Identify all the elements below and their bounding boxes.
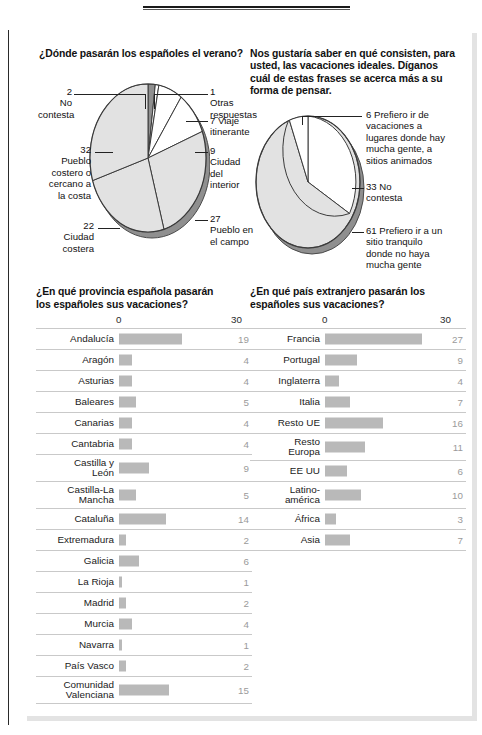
bar-fill xyxy=(325,535,350,546)
bar-row-label: Asturias xyxy=(36,376,119,387)
bar-row-value: 9 xyxy=(244,463,249,474)
pie1-leader-campo xyxy=(195,220,208,221)
table-row: Resto Europa11 xyxy=(250,434,466,461)
bar-row-label: País Vasco xyxy=(36,661,119,672)
bar-row-label: Cantabria xyxy=(36,439,119,450)
pie2-label-sitio-tranquilo: 61 Prefiero ir a un sitio tranquilo dond… xyxy=(366,225,462,271)
bar-fill xyxy=(325,397,350,408)
bar-row-value: 6 xyxy=(458,466,463,477)
pie1-label-no-contesta: 2 No contesta xyxy=(38,86,72,120)
bar-track: 11 xyxy=(325,434,466,460)
bar-fill xyxy=(325,514,336,525)
table-row: Andalucía19 xyxy=(36,328,252,350)
bar-row-label: Canarias xyxy=(36,418,119,429)
pie-chart-verano: ¿Dónde pasarán los españoles el verano? xyxy=(38,48,250,278)
bar-row-label: Inglaterra xyxy=(250,376,325,387)
bar-row-value: 6 xyxy=(244,556,249,567)
pie2-graphic xyxy=(254,110,366,260)
table-row: Inglaterra4 xyxy=(250,371,466,392)
bar-fill xyxy=(325,418,383,429)
bar-row-value: 4 xyxy=(244,355,249,366)
bar2-title: ¿En qué país extranjero pasarán los espa… xyxy=(250,286,428,311)
bar-row-value: 7 xyxy=(458,535,463,546)
table-row: Baleares5 xyxy=(36,392,252,413)
bar-row-label: Andalucía xyxy=(36,334,119,345)
bar-row-label: La Rioja xyxy=(36,577,119,588)
bar-track: 4 xyxy=(119,614,252,634)
bar-track: 6 xyxy=(325,461,466,481)
bar-row-value: 4 xyxy=(458,376,463,387)
bar-row-value: 1 xyxy=(244,640,249,651)
pie2-label-mucha-gente: 6 Prefiero ir de vacaciones a lugares do… xyxy=(366,109,462,166)
bar-fill xyxy=(325,442,365,453)
table-row: Canarias4 xyxy=(36,413,252,434)
bar2-tick-30: 30 xyxy=(440,314,451,325)
bar-row-value: 27 xyxy=(452,334,463,345)
bar-row-label: Italia xyxy=(250,397,325,408)
pie1-title: ¿Dónde pasarán los españoles el verano? xyxy=(38,48,244,60)
bar-row-value: 4 xyxy=(244,418,249,429)
bar-fill xyxy=(119,334,182,345)
bar-track: 2 xyxy=(119,656,252,676)
bar-row-label: Portugal xyxy=(250,355,325,366)
bar-track: 4 xyxy=(119,371,252,391)
bar-fill xyxy=(119,577,122,588)
bar-row-value: 15 xyxy=(238,685,249,696)
table-row: Castilla y León9 xyxy=(36,455,252,482)
bar-fill xyxy=(325,334,422,345)
bar-chart-paises: ¿En qué país extranjero pasarán los espa… xyxy=(250,286,466,551)
table-row: Navarra1 xyxy=(36,635,252,656)
bar-row-value: 2 xyxy=(244,661,249,672)
bar-fill xyxy=(119,439,132,450)
table-row: Latino- américa10 xyxy=(250,482,466,509)
bar-row-value: 11 xyxy=(453,442,463,453)
table-row: Comunidad Valenciana15 xyxy=(36,677,252,704)
bar-fill xyxy=(119,376,132,387)
pie1-leader-otras-v xyxy=(154,94,155,109)
bar-track: 4 xyxy=(325,371,466,391)
bar-row-value: 14 xyxy=(238,514,249,525)
bar-fill xyxy=(119,514,166,525)
bar-row-value: 4 xyxy=(244,619,249,630)
pie2-leader-no-contesta xyxy=(352,188,364,189)
bar-row-value: 1 xyxy=(244,577,249,588)
bar1-tick-30: 30 xyxy=(231,314,242,325)
pie2-label-no-contesta: 33 No contesta xyxy=(366,181,462,204)
bar-row-value: 10 xyxy=(452,490,463,501)
bar-track: 27 xyxy=(325,329,466,349)
bar-row-value: 4 xyxy=(244,376,249,387)
bar-row-label: África xyxy=(250,514,325,525)
bar-row-label: Aragón xyxy=(36,355,119,366)
table-row: Aragón4 xyxy=(36,350,252,371)
bar-fill xyxy=(119,490,136,501)
bar-fill xyxy=(119,556,139,567)
bar-track: 4 xyxy=(119,350,252,370)
pie1-leader-pueblo-costero xyxy=(95,152,113,153)
table-row: Cantabria4 xyxy=(36,434,252,455)
bar-row-value: 16 xyxy=(452,418,463,429)
table-row: La Rioja1 xyxy=(36,572,252,593)
bar-fill xyxy=(119,463,149,474)
bar-row-value: 9 xyxy=(458,355,463,366)
bar-track: 5 xyxy=(119,482,252,508)
bar-fill xyxy=(119,598,126,609)
bar-fill xyxy=(119,535,126,546)
table-row: Galicia6 xyxy=(36,551,252,572)
bar-row-label: Latino- américa xyxy=(250,485,325,506)
pie1-leader-otras xyxy=(154,94,208,95)
bar-row-value: 2 xyxy=(244,598,249,609)
table-row: Francia27 xyxy=(250,328,466,350)
bar-fill xyxy=(119,640,122,651)
bar-track: 7 xyxy=(325,392,466,412)
table-row: Resto UE16 xyxy=(250,413,466,434)
bar-track: 14 xyxy=(119,509,252,529)
bar-row-value: 3 xyxy=(458,514,463,525)
bar1-tick-0: 0 xyxy=(116,314,121,325)
bar-row-label: Baleares xyxy=(36,397,119,408)
bar-row-label: Asia xyxy=(250,535,325,546)
bar1-rows: Andalucía19Aragón4Asturias4Baleares5Cana… xyxy=(36,328,252,704)
bar-row-label: Castilla-La Mancha xyxy=(36,485,119,506)
bar-row-value: 5 xyxy=(244,397,249,408)
bar-row-label: Murcia xyxy=(36,619,119,630)
left-margin-rule xyxy=(8,30,9,725)
